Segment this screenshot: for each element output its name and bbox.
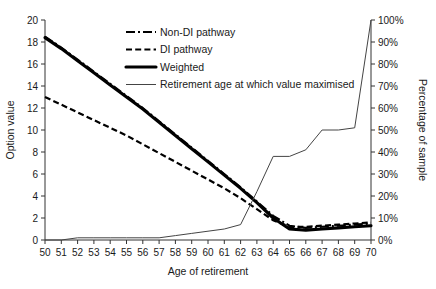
x-tick-label: 56 [137,247,149,258]
right-tick-label: 70% [378,81,398,92]
x-tick-label: 57 [154,247,166,258]
y-axis-title: Option value [4,100,16,159]
right-axis: 0%10%20%30%40%50%60%70%80%90%100% [371,15,404,246]
left-tick-label: 10 [27,125,39,136]
right-tick-label: 30% [378,169,398,180]
legend-label: DI pathway [160,43,213,55]
x-tick-label: 62 [235,247,247,258]
y2-axis-title: Percentage of sample [417,79,429,181]
x-tick-label: 66 [300,247,312,258]
legend-label: Retirement age at which value maximised [160,78,354,90]
right-tick-label: 10% [378,213,398,224]
right-tick-label: 100% [378,15,404,26]
series-solid-bold [45,38,371,231]
left-tick-label: 2 [32,213,38,224]
right-tick-label: 80% [378,59,398,70]
x-tick-label: 55 [121,247,133,258]
x-axis-title: Age of retirement [168,265,249,277]
x-tick-label: 52 [72,247,84,258]
left-tick-label: 6 [32,169,38,180]
x-tick-label: 60 [202,247,214,258]
left-tick-label: 20 [27,15,39,26]
legend-label: Non-DI pathway [160,26,236,38]
chart-canvas: 02468101214161820 0%10%20%30%40%50%60%70… [0,0,436,289]
x-tick-label: 63 [251,247,263,258]
left-tick-label: 18 [27,37,39,48]
left-tick-label: 0 [32,235,38,246]
x-tick-label: 54 [105,247,117,258]
series-dash-dot [45,37,371,228]
x-tick-label: 53 [88,247,100,258]
left-tick-label: 4 [32,191,38,202]
x-tick-label: 67 [317,247,329,258]
right-tick-label: 50% [378,125,398,136]
x-tick-label: 68 [333,247,345,258]
x-tick-label: 69 [349,247,361,258]
x-tick-label: 61 [219,247,231,258]
right-tick-label: 40% [378,147,398,158]
x-tick-label: 51 [56,247,68,258]
right-tick-label: 20% [378,191,398,202]
right-tick-label: 0% [378,235,393,246]
x-tick-label: 58 [170,247,182,258]
right-tick-label: 60% [378,103,398,114]
left-axis: 02468101214161820 [27,15,45,246]
option-value-chart: 02468101214161820 0%10%20%30%40%50%60%70… [0,0,436,289]
left-tick-label: 14 [27,81,39,92]
x-tick-label: 65 [284,247,296,258]
x-tick-label: 70 [365,247,377,258]
x-tick-label: 59 [186,247,198,258]
x-tick-label: 50 [39,247,51,258]
x-tick-label: 64 [268,247,280,258]
left-tick-label: 8 [32,147,38,158]
left-tick-label: 16 [27,59,39,70]
right-tick-label: 90% [378,37,398,48]
legend-label: Weighted [160,61,204,73]
x-axis: 5051525354555657585960616263646566676869… [39,240,377,258]
left-tick-label: 12 [27,103,39,114]
chart-legend: Non-DI pathwayDI pathwayWeightedRetireme… [126,26,354,91]
